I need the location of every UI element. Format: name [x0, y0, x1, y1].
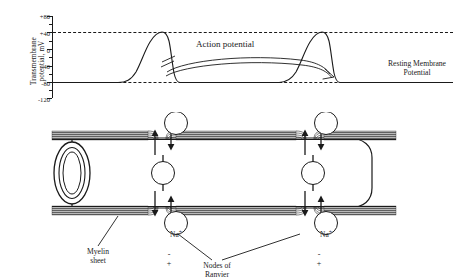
myelin-sheet-caption: Myelin sheet — [62, 248, 134, 265]
node-2-na-top-circle — [315, 112, 338, 135]
axon-cross-section — [54, 142, 90, 204]
node-1-sign-outer-top: - — [165, 251, 173, 259]
ranvier-leader-line-1 — [178, 234, 212, 260]
myelin-leader-line — [98, 216, 118, 246]
node-2-na-bottom-circle — [315, 212, 338, 235]
action-potential-chart: Transmembrane potential, mV +80 +40 0 -4… — [0, 0, 464, 112]
node-1-k-circle — [152, 162, 175, 185]
myelin-segment-bottom — [52, 206, 396, 215]
action-potential-label: Action potential — [196, 39, 254, 49]
myelinated-axon-diagram: Na+ K+ Na+ Na+ K+ Na+ - + + - - + + - My… — [0, 112, 464, 278]
ranvier-leader-line-2 — [222, 234, 300, 260]
node-2-sign-inner-top: + — [315, 260, 323, 268]
myelin-segment-top — [52, 131, 396, 140]
node-1-na-bottom-circle — [165, 212, 188, 235]
node-1-na-top-circle — [165, 112, 188, 135]
node-2-sign-outer-top: - — [315, 251, 323, 259]
figure-root: Transmembrane potential, mV +80 +40 0 -4… — [0, 0, 464, 278]
membrane-potential-curve — [0, 0, 464, 112]
node-1-sign-inner-top: + — [165, 260, 173, 268]
resting-membrane-potential-label: Resting Membrane Potential — [375, 60, 459, 77]
nodes-of-ranvier-caption: Nodes of Ranvier — [181, 262, 253, 278]
node-2-k-circle — [302, 162, 325, 185]
